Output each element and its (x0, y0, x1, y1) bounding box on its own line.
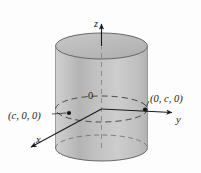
z-axis-label: z (93, 18, 98, 29)
cylinder-solid (56, 33, 148, 161)
cylinder-diagram-figure: 0 z y x (c, 0, 0) (0, c, 0) (0, 0, 201, 173)
point-marker-0-c-0 (143, 107, 147, 111)
x-axis-label: x (35, 134, 41, 145)
point-label-c-0-0: (c, 0, 0) (8, 110, 41, 122)
point-marker-c-0-0 (67, 111, 71, 115)
origin-label: 0 (88, 90, 93, 101)
cylinder-diagram-canvas: 0 z y x (c, 0, 0) (0, c, 0) (0, 0, 201, 173)
y-axis-label: y (175, 114, 181, 125)
point-label-0-c-0: (0, c, 0) (150, 93, 183, 105)
